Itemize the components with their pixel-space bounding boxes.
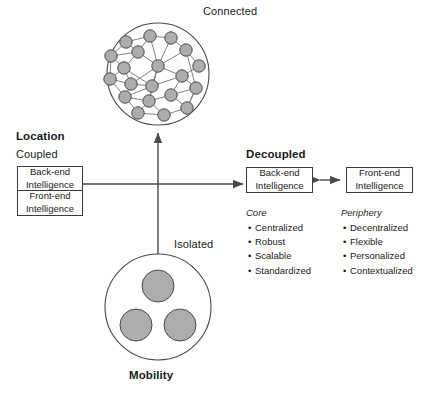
core-label: Scalable (255, 250, 291, 261)
core-bullet-list: •Centralized•Robust•Scalable•Standardize… (248, 221, 311, 278)
periphery-label: Contextualized (350, 265, 413, 276)
periphery-label: Decentralized (350, 222, 408, 233)
isolated-node (120, 309, 152, 341)
bullet-glyph-icon: • (248, 264, 255, 278)
bullet-glyph-icon: • (343, 264, 350, 278)
coupled-stack-box: Back-end Intelligence Front-end Intellig… (17, 166, 83, 216)
periphery-item: •Decentralized (343, 221, 413, 235)
label-coupled: Coupled (16, 148, 58, 160)
bullet-glyph-icon: • (248, 235, 255, 249)
coupled-frontend-line2: Intelligence (26, 203, 74, 216)
label-decoupled: Decoupled (246, 148, 306, 161)
connected-network-graphic (104, 23, 209, 125)
network-node (132, 107, 144, 119)
network-node (119, 91, 131, 103)
core-item: •Centralized (248, 221, 311, 235)
bullet-glyph-icon: • (343, 249, 350, 263)
label-isolated: Isolated (174, 238, 213, 250)
network-node (165, 32, 177, 44)
isolated-node (164, 309, 196, 341)
network-node (120, 36, 132, 48)
core-label: Robust (255, 236, 285, 247)
bullet-glyph-icon: • (248, 221, 255, 235)
coupled-backend-cell: Back-end Intelligence (18, 167, 82, 191)
periphery-heading: Periphery (341, 207, 382, 218)
network-node (104, 73, 116, 85)
network-node (152, 60, 164, 72)
network-node (180, 44, 192, 56)
coupled-backend-line1: Back-end (30, 166, 70, 179)
network-node (158, 109, 170, 121)
coupled-frontend-line1: Front-end (29, 190, 70, 203)
network-node (146, 80, 158, 92)
periphery-bullet-list: •Decentralized•Flexible•Personalized•Con… (343, 221, 413, 278)
periphery-label: Personalized (350, 250, 405, 261)
core-label: Centralized (255, 222, 303, 233)
decoupled-frontend-line1: Front-end (359, 167, 400, 180)
coupled-frontend-cell: Front-end Intelligence (18, 191, 82, 215)
core-item: •Standardized (248, 264, 311, 278)
decoupled-frontend-box: Front-end Intelligence (346, 167, 413, 193)
label-connected: Connected (203, 5, 257, 17)
network-node (190, 82, 202, 94)
bullet-glyph-icon: • (343, 235, 350, 249)
label-location-axis: Location (16, 130, 65, 143)
decoupled-backend-box: Back-end Intelligence (246, 167, 313, 193)
network-node (165, 89, 177, 101)
isolated-node (142, 270, 174, 302)
periphery-item: •Contextualized (343, 264, 413, 278)
isolated-cluster-graphic (105, 254, 211, 360)
network-node (132, 46, 144, 58)
network-node (181, 102, 193, 114)
bullet-glyph-icon: • (343, 221, 350, 235)
network-node (125, 78, 137, 90)
decoupled-frontend-line2: Intelligence (355, 180, 403, 193)
core-heading: Core (246, 207, 267, 218)
core-item: •Scalable (248, 249, 311, 263)
network-node (143, 95, 155, 107)
decoupled-backend-line2: Intelligence (255, 180, 303, 193)
network-node (144, 30, 156, 42)
network-node (118, 62, 130, 74)
network-node (193, 60, 205, 72)
periphery-label: Flexible (350, 236, 383, 247)
network-node (105, 50, 117, 62)
diagram-canvas: Connected Isolated Mobility Location Cou… (0, 0, 434, 397)
bullet-glyph-icon: • (248, 249, 255, 263)
network-node (176, 70, 188, 82)
periphery-item: •Personalized (343, 249, 413, 263)
periphery-item: •Flexible (343, 235, 413, 249)
core-item: •Robust (248, 235, 311, 249)
core-label: Standardized (255, 265, 311, 276)
label-mobility-axis: Mobility (129, 369, 173, 382)
decoupled-backend-line1: Back-end (259, 167, 299, 180)
